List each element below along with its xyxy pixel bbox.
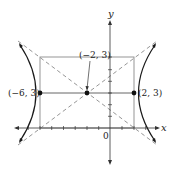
y-axis-arrow-up bbox=[108, 20, 112, 25]
right-vertex-point bbox=[132, 91, 137, 96]
y-axis-label: y bbox=[107, 8, 114, 19]
center-point bbox=[85, 91, 90, 96]
left-branch-arrow-bottom bbox=[19, 138, 23, 143]
center-label: (−2, 3) bbox=[79, 50, 111, 60]
origin-label: 0 bbox=[103, 131, 109, 141]
center-label-pointer bbox=[87, 61, 90, 89]
x-axis-arrow-left bbox=[14, 126, 19, 130]
left-branch-arrow-top bbox=[19, 43, 23, 48]
right-vertex-label: (2, 3) bbox=[138, 88, 162, 98]
x-axis-arrow-right bbox=[155, 126, 160, 130]
x-axis-label: x bbox=[161, 122, 167, 133]
left-vertex-label: (−6, 3) bbox=[8, 88, 40, 98]
pointer-arrowhead bbox=[86, 86, 89, 91]
hyperbola-diagram: (−2, 3) (−6, 3) (2, 3) x y 0 bbox=[0, 0, 176, 171]
y-axis-arrow-down bbox=[108, 160, 112, 165]
